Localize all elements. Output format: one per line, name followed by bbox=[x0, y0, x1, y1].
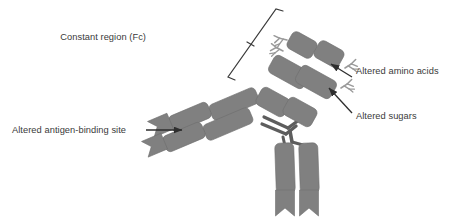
fc-domain bbox=[294, 64, 339, 101]
label-constant-region: Constant region (Fc) bbox=[60, 32, 146, 42]
antibody-diagram: Constant region (Fc) Altered amino acids… bbox=[0, 0, 455, 218]
antigen-binding-tip bbox=[300, 190, 319, 216]
label-altered-amino-acids: Altered amino acids bbox=[356, 66, 439, 76]
arm-domain bbox=[275, 143, 296, 194]
label-altered-antigen-binding-site: Altered antigen-binding site bbox=[12, 125, 126, 135]
arrow-to-altered-sugars bbox=[329, 88, 352, 113]
fc-domain bbox=[285, 30, 319, 60]
arm-domain bbox=[299, 143, 320, 194]
label-altered-sugars: Altered sugars bbox=[356, 111, 417, 121]
upper-left-arm bbox=[142, 86, 261, 157]
glycan-cluster bbox=[340, 79, 355, 94]
figure-canvas: Constant region (Fc) Altered amino acids… bbox=[0, 0, 455, 218]
lower-arm bbox=[275, 143, 320, 216]
antigen-binding-tip bbox=[276, 190, 295, 216]
fc-domain bbox=[312, 39, 346, 69]
upper-right-arm-fc bbox=[254, 30, 359, 129]
